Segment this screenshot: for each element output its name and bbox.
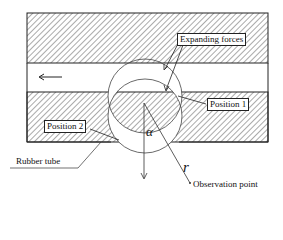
observation-point-label: Observation point (193, 180, 258, 189)
expanding-forces-label: Expanding forces (177, 33, 246, 46)
rubber-tube-label: Rubber tube (16, 157, 60, 166)
position-1-label: Position 1 (207, 98, 249, 111)
alpha-angle-label: α (146, 125, 153, 138)
radius-label: r (183, 160, 189, 175)
position-2-label: Position 2 (44, 120, 86, 133)
